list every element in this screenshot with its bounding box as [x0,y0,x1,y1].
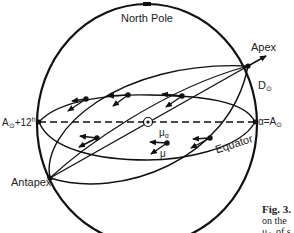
apex-arrow [248,56,266,66]
hours-sup: h [32,116,36,123]
apex-label: Apex [251,42,276,53]
caption-rest: of s [273,226,290,233]
a-text: A [2,117,9,128]
alpha-a-point [253,120,258,125]
alpha-a-label: α=A⊙ [258,117,282,128]
a-plus-12-point [37,120,42,125]
a-plus-12-label: A⊙+12h [2,116,36,129]
apex-point [245,63,250,68]
sun-symbol-sub: ⊙ [276,121,282,128]
plus-12-text: +12 [15,117,32,128]
alpha-sub: α [165,132,169,139]
sun-symbol-sub: ⊙ [266,85,272,92]
north-pole-label: North Pole [121,13,173,24]
d-sun-text: D [258,79,266,91]
d-sun-label: D⊙ [258,80,272,92]
mu-label: μ [160,149,166,159]
mu-alpha-label: μα [159,128,169,139]
figure-caption-line3: μ⊙ of s [262,227,291,233]
alpha-a-text: α=A [258,116,276,127]
celestial-sphere-diagram [0,0,294,233]
figure-caption-line2: on the [262,216,287,226]
antapex-label: Antapex [11,177,51,188]
sun-center-icon [144,118,153,127]
figure-caption-title: Fig. 3. [262,204,291,215]
north-pole-marker [143,2,151,6]
